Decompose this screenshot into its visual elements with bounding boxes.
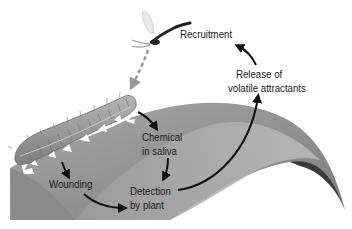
label-chemical-line1: Chemical	[142, 131, 182, 143]
diagram-illustration	[0, 0, 352, 229]
label-detection-line1: Detection	[130, 185, 171, 197]
label-release-line1: Release of	[236, 68, 282, 80]
leaf-illustration	[10, 103, 345, 220]
label-release-line2: volatile attractants	[228, 82, 306, 94]
arrow-release-to-recruitment	[238, 46, 256, 65]
label-chemical-line2: in saliva	[142, 145, 177, 157]
label-wounding: Wounding	[49, 178, 92, 190]
label-recruitment: Recruitment	[180, 28, 232, 40]
label-detection-line2: by plant	[130, 199, 164, 211]
diagram-canvas: Recruitment Release of volatile attracta…	[0, 0, 352, 229]
dashed-arrow-wasp-to-caterpillar	[132, 50, 148, 86]
